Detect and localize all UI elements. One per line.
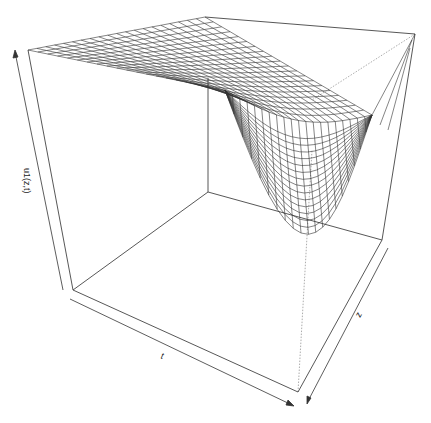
persp-plot: u1(z,t) t z — [0, 0, 431, 423]
surface-plateau — [28, 17, 372, 122]
z-axis-label: z — [353, 310, 364, 319]
axis-arrows — [13, 50, 388, 406]
t-axis-label: t — [159, 351, 166, 361]
z-value-axis-label: u1(z,t) — [22, 168, 32, 194]
hidden-box-edges — [298, 34, 415, 392]
z-axis-arrow — [308, 248, 388, 401]
t-axis-arrow — [70, 299, 292, 405]
